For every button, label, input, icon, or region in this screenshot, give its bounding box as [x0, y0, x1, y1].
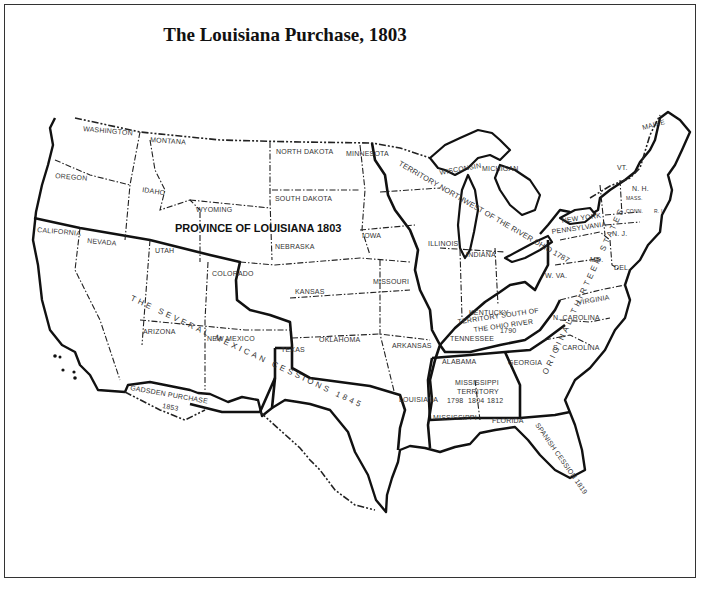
label-utah: UTAH	[155, 247, 174, 254]
label-wyoming: WYOMING	[196, 206, 232, 213]
label-connecticut: CONN.	[626, 208, 643, 214]
label-mississippi-year-2: 1804	[468, 397, 484, 404]
label-gadsden-purchase: GADSDEN PURCHASE	[130, 384, 209, 405]
label-kansas: KANSAS	[295, 288, 325, 295]
channel-islands	[53, 354, 77, 380]
label-washington: WASHINGTON	[83, 125, 133, 136]
us-outline	[33, 112, 690, 512]
label-mississippi-territory-2: TERRITORY	[457, 388, 499, 395]
label-illinois: ILLINOIS	[428, 240, 459, 247]
lake-michigan	[458, 175, 478, 258]
label-gadsden-year: 1853	[162, 402, 179, 412]
label-new-hampshire: N. H.	[632, 185, 649, 192]
label-arizona: ARIZONA	[143, 328, 176, 335]
label-mississippi-year-1: 1798	[447, 397, 463, 404]
label-mississippi-year-3: 1812	[487, 397, 503, 404]
label-montana: MONTANA	[150, 136, 186, 145]
label-colorado: COLORADO	[212, 270, 254, 277]
mexican-cession-east	[190, 378, 275, 412]
label-massachusetts: MASS.	[626, 195, 643, 201]
label-arkansas: ARKANSAS	[392, 342, 432, 349]
lake-huron	[495, 165, 540, 215]
label-mississippi-territory-1: MISSISSIPPI	[455, 379, 499, 386]
label-florida: FLORIDA	[492, 417, 524, 424]
label-northwest-territory: TERRITORY NORTHWEST OF THE RIVER OHIO 17…	[397, 159, 571, 265]
label-vermont: VT.	[617, 164, 628, 171]
label-nebraska: NEBRASKA	[275, 243, 315, 250]
us-map: PROVINCE OF LOUISIANA 1803 WASHINGTON OR…	[0, 0, 704, 593]
label-texas: TEXAS	[281, 346, 305, 353]
label-georgia: GEORGIA	[508, 359, 542, 366]
label-michigan: MICHIGAN	[482, 165, 519, 172]
label-oklahoma: OKLAHOMA	[319, 336, 360, 343]
canada-border	[75, 118, 455, 158]
label-north-dakota: NORTH DAKOTA	[276, 148, 333, 155]
label-south-ohio-year: 1790	[500, 327, 516, 334]
label-delaware: DEL.	[614, 264, 630, 271]
label-minnesota: MINNESOTA	[346, 150, 389, 157]
label-oregon: OREGON	[55, 172, 88, 182]
state-labels: WASHINGTON OREGON CALIFORNIA NEVADA IDAH…	[37, 118, 666, 424]
label-indiana: INDIANA	[466, 251, 496, 258]
label-louisiana: LOUISIANA	[399, 396, 438, 403]
label-mississippi: MISSISSIPPI	[433, 414, 477, 421]
label-iowa: IOWA	[362, 232, 381, 239]
label-alabama: ALABAMA	[442, 358, 477, 365]
label-maine: MAINE	[641, 118, 665, 131]
label-tennessee: TENNESSEE	[450, 335, 494, 342]
label-nevada: NEVADA	[87, 237, 117, 247]
province-of-louisiana-label: PROVINCE OF LOUISIANA 1803	[175, 222, 341, 234]
label-south-dakota: SOUTH DAKOTA	[275, 195, 332, 202]
label-missouri: MISSOURI	[373, 278, 409, 285]
label-west-virginia: W. VA.	[545, 272, 567, 279]
label-rhode-island: R. I.	[654, 208, 664, 214]
label-idaho: IDAHO	[142, 186, 166, 196]
